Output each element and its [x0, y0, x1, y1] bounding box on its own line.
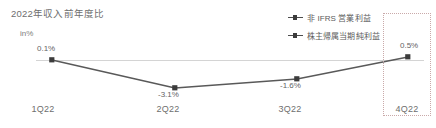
series-line [52, 57, 408, 88]
data-label-3q22: -1.6% [280, 81, 301, 90]
data-point-marker [49, 57, 54, 62]
x-tick-label-3q22: 3Q22 [278, 104, 301, 114]
plot-area [0, 0, 436, 128]
x-tick-label-4q22: 4Q22 [395, 104, 418, 114]
data-label-4q22: 0.5% [400, 41, 418, 50]
data-label-1q22: 0.1% [37, 44, 55, 53]
data-point-marker [405, 54, 410, 59]
chart-figure: 2022年収入前年度比 in% 非 IFRS 営業利益 株主帰属当期純利益 [0, 0, 436, 128]
x-tick-label-2q22: 2Q22 [156, 104, 179, 114]
x-tick-label-1q22: 1Q22 [31, 104, 54, 114]
data-label-2q22: -3.1% [158, 90, 179, 99]
